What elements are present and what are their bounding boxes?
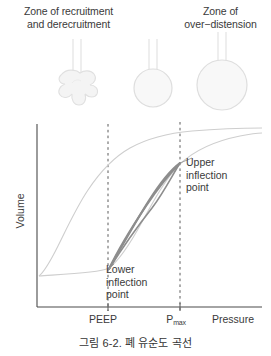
figure-root: Zone of recruitment and derecruitment Zo… [0, 0, 271, 356]
pmax-subscript: max [173, 319, 186, 326]
upper-inflection-point-label: Upper inflection point [186, 156, 227, 194]
full-deflation-curve [39, 133, 262, 276]
figure-caption: 그림 6-2. 폐 유순도 곡선 [0, 334, 271, 350]
x-axis-title: Pressure [212, 313, 254, 325]
pressure-volume-chart [0, 0, 271, 356]
x-tick-label-peep: PEEP [78, 313, 128, 325]
tidal-loop-inner-limb [109, 163, 180, 269]
x-tick-label-pmax: Pmax [151, 313, 201, 326]
full-inflation-curve [39, 128, 262, 276]
lower-inflection-point-label: Lower inflection point [106, 263, 147, 301]
y-axis-title: Volume [14, 181, 26, 241]
